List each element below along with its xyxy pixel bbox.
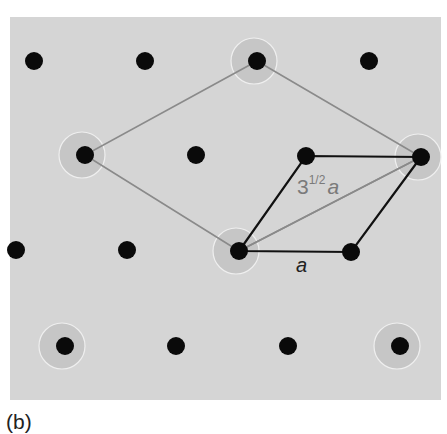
lattice-atom (118, 241, 136, 259)
lattice-diagram: 31/2a a (0, 0, 447, 434)
long-label-base: 3 (297, 175, 309, 198)
lattice-atom (412, 148, 430, 166)
lattice-atom (230, 242, 248, 260)
short-edge-label: a (296, 254, 307, 276)
panel-label: (b) (6, 410, 32, 434)
lattice-atom (248, 52, 266, 70)
long-label-exponent: 1/2 (309, 173, 326, 187)
lattice-atom (25, 52, 43, 70)
lattice-atom (56, 337, 74, 355)
lattice-atom (7, 241, 25, 259)
lattice-atom (136, 52, 154, 70)
lattice-atom (76, 146, 94, 164)
lattice-atom (360, 52, 378, 70)
lattice-atom (279, 337, 297, 355)
lattice-atom (187, 146, 205, 164)
lattice-atom (167, 337, 185, 355)
lattice-atom (297, 147, 315, 165)
long-label-variable: a (327, 175, 339, 198)
lattice-atom (391, 337, 409, 355)
lattice-atom (342, 243, 360, 261)
